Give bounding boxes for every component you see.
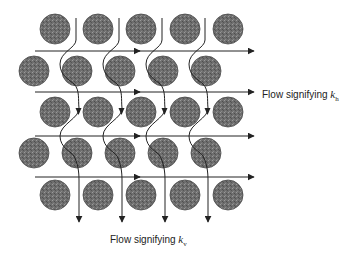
grain	[19, 138, 49, 168]
grain	[19, 56, 49, 86]
horizontal-flow-label: Flow signifying kh	[262, 88, 339, 103]
grain	[126, 180, 156, 210]
grain	[213, 97, 243, 127]
grain	[83, 180, 113, 210]
arrowhead-icon	[76, 108, 82, 115]
grain	[83, 14, 113, 44]
arrowhead-icon	[119, 108, 125, 115]
grain	[170, 14, 200, 44]
grain	[213, 14, 243, 44]
kv-symbol: kv	[178, 233, 186, 245]
kh-symbol: kh	[330, 88, 338, 100]
vertical-flow-label: Flow signifying kv	[110, 233, 187, 248]
grain	[40, 180, 70, 210]
grain	[213, 180, 243, 210]
grain	[126, 14, 156, 44]
grain	[191, 56, 221, 86]
grain	[126, 97, 156, 127]
grain	[170, 97, 200, 127]
arrowhead-icon	[162, 108, 168, 115]
arrowhead-icon	[205, 108, 211, 115]
grain	[170, 180, 200, 210]
grain	[40, 97, 70, 127]
grain	[105, 56, 135, 86]
grain	[148, 56, 178, 86]
grain-group	[19, 14, 243, 210]
grain	[40, 14, 70, 44]
grain	[62, 56, 92, 86]
grain	[83, 97, 113, 127]
flow-diagram	[0, 0, 354, 254]
